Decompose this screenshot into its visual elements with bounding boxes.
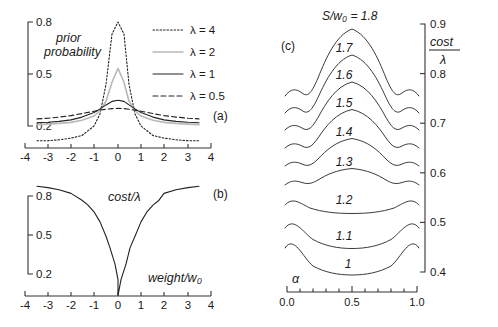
panel-c-xtick-0: 0.0 [279,296,294,308]
panel-b-xtick-8: 4 [208,299,215,311]
panel-c-curve-label-1: 1 [345,257,352,271]
panel-a: 0.8 0.5 0.2 -4 -3 -2 -1 0 1 2 [20,16,228,163]
panel-c-label: (c) [281,39,295,53]
panel-b-xtick-0: -4 [20,299,31,311]
panel-a-xtick-5: 1 [138,151,144,163]
panel-c-ytick-5: 0.4 [430,266,447,278]
panel-a-xtick-8: 4 [208,151,215,163]
panel-c-xaxis-title: α [292,272,300,286]
panel-b-xtick-3: -1 [89,299,99,311]
panel-b-xtick-6: 2 [161,299,167,311]
panel-c-curve-label-1p1: 1.1 [336,229,353,243]
panel-c-curve-label-1p4: 1.4 [336,125,353,139]
panel-c-ytick-4: 0.5 [430,216,446,228]
panel-b-ytick-2: 0.2 [36,268,52,280]
panel-b-xtick-2: -2 [66,299,76,311]
panel-c-x-axis [287,286,417,292]
curve-s-1p8 [285,29,419,96]
figure-svg: 0.8 0.5 0.2 -4 -3 -2 -1 0 1 2 [0,0,498,327]
panel-a-xtick-1: -3 [43,151,53,163]
curve-s-1p3 [285,169,419,186]
panel-c-ytick-2: 0.7 [430,117,446,129]
panel-b-xtick-1: -3 [43,299,53,311]
panel-a-title-line1: prior [55,31,82,45]
panel-c-xtick-2: 1.0 [409,296,424,308]
panel-a-label: (a) [213,109,228,123]
panel-a-xtick-7: 3 [185,151,191,163]
panel-b-xaxis-title: weight/w₀ [148,271,202,285]
panel-c-curve-label-1p2: 1.2 [336,193,353,207]
panel-a-ytick-1: 0.5 [36,68,52,80]
panel-c-ytick-0: 0.9 [430,18,446,30]
legend-label-lambda-4: λ = 4 [190,24,216,36]
figure-root: 0.8 0.5 0.2 -4 -3 -2 -1 0 1 2 [0,0,498,327]
panel-a-x-axis [25,143,211,148]
panel-c-ytick-3: 0.6 [430,167,446,179]
curve-lambda-2 [37,68,199,124]
panel-b-ytick-1: 0.5 [36,229,52,241]
panel-b: 0.8 0.5 0.2 -4 -3 -2 -1 0 1 2 3 [20,186,228,311]
panel-b-title: cost/λ [108,190,141,204]
panel-c-yaxis-title-den: λ [439,53,446,67]
panel-a-xtick-2: -2 [66,151,76,163]
panel-b-xtick-7: 3 [185,299,191,311]
panel-b-label: (b) [213,187,228,201]
panel-c-yaxis-title-num: cost [430,35,453,49]
panel-a-title-line2: probability [43,45,102,59]
panel-c-y-axis [420,24,425,272]
panel-a-ytick-0: 0.8 [36,16,52,28]
panel-c: (c) 0.9 0.8 0.7 0.6 0.5 0.4 cost λ [279,9,460,308]
panel-b-xtick-5: 1 [138,299,144,311]
panel-c-ytick-1: 0.8 [430,68,446,80]
curve-lambda-1 [37,100,199,123]
panel-c-curve-label-1p5: 1.5 [336,96,353,110]
panel-b-ytick-0: 0.8 [36,190,52,202]
panel-a-xtick-3: -1 [89,151,99,163]
panel-a-xtick-6: 2 [161,151,167,163]
panel-c-xtick-1: 0.5 [344,296,359,308]
curve-lambda-0p5 [37,108,199,119]
panel-c-curve-label-1p6: 1.6 [336,68,353,82]
panel-a-legend: λ = 4 λ = 2 λ = 1 λ = 0.5 [153,24,225,102]
legend-label-lambda-0p5: λ = 0.5 [190,90,225,102]
panel-c-series-header: S/w₀ = 1.8 [322,9,378,23]
panel-c-curve-label-1p3: 1.3 [336,155,353,169]
panel-c-curve-label-1p7: 1.7 [336,41,354,55]
legend-label-lambda-2: λ = 2 [190,46,215,58]
legend-label-lambda-1: λ = 1 [190,68,215,80]
panel-a-xtick-0: -4 [20,151,31,163]
panel-a-xtick-4: 0 [115,151,121,163]
panel-b-xtick-4: 0 [115,299,121,311]
